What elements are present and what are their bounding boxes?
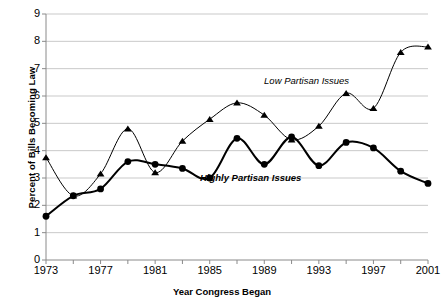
plot-area xyxy=(0,0,444,308)
y-axis-tick-marks xyxy=(42,14,46,260)
x-axis-tick-marks xyxy=(46,260,428,264)
chart-container: Percent of Bills Becoming Law Year Congr… xyxy=(0,0,444,308)
series-annotation-low-partisan: Low Partisan Issues xyxy=(264,75,349,86)
series-annotation-highly-partisan: Highly Partisan Issues xyxy=(200,172,301,183)
gridlines xyxy=(46,14,428,233)
